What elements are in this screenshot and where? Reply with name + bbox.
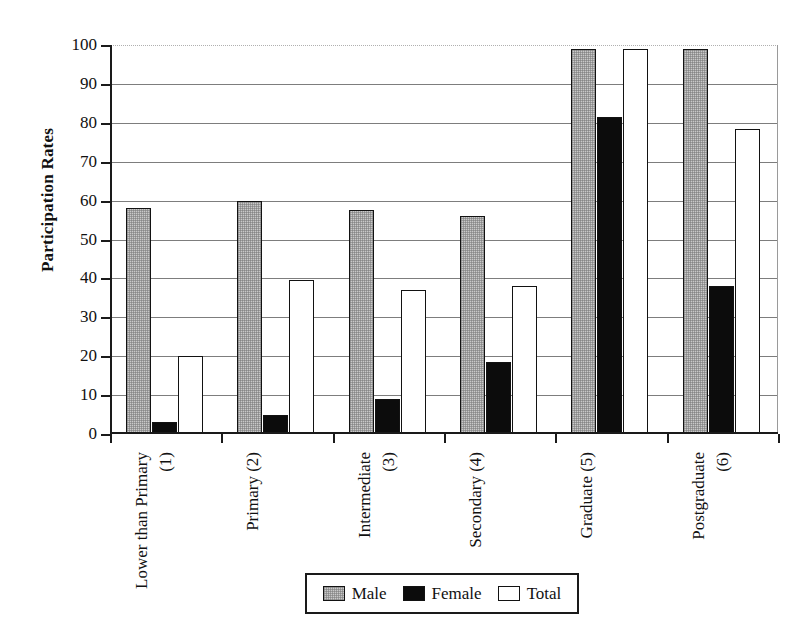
- y-axis-tick-label: 70: [53, 153, 97, 170]
- bar-total-3: [401, 290, 426, 434]
- y-axis-tick-mark: [101, 240, 110, 242]
- x-axis-tick-mark: [778, 434, 780, 443]
- y-axis-tick-label: 80: [53, 114, 97, 131]
- gridline: [110, 84, 778, 85]
- legend-item-total[interactable]: Total: [498, 585, 562, 602]
- participation-rates-bar-chart: Participation Rates 01020304050607080901…: [0, 0, 807, 643]
- legend-item-male[interactable]: Male: [323, 585, 387, 602]
- gridline: [110, 395, 778, 396]
- plot-area: [110, 45, 778, 434]
- y-axis-tick-mark: [101, 317, 110, 319]
- x-axis-tick-mark: [333, 434, 335, 443]
- bar-total-4: [512, 286, 537, 434]
- bar-male-5: [571, 49, 596, 434]
- y-axis-tick-label: 50: [53, 231, 97, 248]
- bar-female-6: [709, 286, 734, 434]
- bar-female-3: [375, 399, 400, 434]
- y-axis-tick-mark: [101, 201, 110, 203]
- y-axis-tick-label: 20: [53, 347, 97, 364]
- bar-female-5: [597, 117, 622, 434]
- y-axis-tick-mark: [101, 278, 110, 280]
- bar-male-1: [126, 208, 151, 434]
- gridline: [110, 278, 778, 279]
- gridline: [110, 162, 778, 163]
- x-axis-category-label: Postgraduate: [689, 452, 709, 642]
- gridline: [110, 201, 778, 202]
- plot-top-border: [110, 45, 778, 46]
- y-axis-tick-label: 60: [53, 192, 97, 209]
- bar-male-3: [349, 210, 374, 434]
- x-axis-category-label: Lower than Primary: [132, 452, 152, 642]
- y-axis-line: [110, 45, 112, 434]
- x-axis-tick-mark: [555, 434, 557, 443]
- y-axis-tick-label: 40: [53, 269, 97, 286]
- gridline: [110, 317, 778, 318]
- bar-female-4: [486, 362, 511, 434]
- bar-total-2: [289, 280, 314, 434]
- bar-male-2: [237, 201, 262, 434]
- y-axis-tick-mark: [101, 356, 110, 358]
- gridline: [110, 123, 778, 124]
- legend-label: Male: [352, 585, 387, 602]
- gridline: [110, 356, 778, 357]
- y-axis-tick-mark: [101, 395, 110, 397]
- y-axis-tick-label: 0: [53, 425, 97, 442]
- legend-label: Female: [432, 585, 482, 602]
- plot-right-border: [777, 45, 778, 434]
- y-axis-tick-mark: [101, 45, 110, 47]
- legend-swatch-total-icon: [498, 586, 520, 601]
- y-axis-tick-label: 90: [53, 75, 97, 92]
- bar-total-1: [178, 356, 203, 434]
- y-axis-tick-mark: [101, 84, 110, 86]
- y-axis-tick-mark: [101, 123, 110, 125]
- x-axis-category-label: (6): [713, 452, 733, 642]
- x-axis-tick-mark: [221, 434, 223, 443]
- legend-label: Total: [527, 585, 562, 602]
- x-axis-category-label: (1): [156, 452, 176, 642]
- y-axis-tick-mark: [101, 162, 110, 164]
- chart-legend: MaleFemaleTotal: [305, 573, 579, 614]
- x-axis-tick-mark: [667, 434, 669, 443]
- bar-male-4: [460, 216, 485, 434]
- bar-total-5: [623, 49, 648, 434]
- legend-swatch-female-icon: [403, 586, 425, 601]
- bar-male-6: [683, 49, 708, 434]
- y-axis-tick-label: 30: [53, 308, 97, 325]
- x-axis-tick-mark: [444, 434, 446, 443]
- x-axis-category-label: Primary (2): [243, 452, 263, 642]
- x-axis-tick-mark: [110, 434, 112, 443]
- legend-swatch-male-icon: [323, 586, 345, 601]
- y-axis-tick-label: 10: [53, 386, 97, 403]
- legend-item-female[interactable]: Female: [403, 585, 482, 602]
- bar-total-6: [735, 129, 760, 434]
- gridline: [110, 240, 778, 241]
- y-axis-tick-mark: [101, 434, 110, 436]
- y-axis-tick-label: 100: [53, 36, 97, 53]
- x-axis-category-label: Graduate (5): [577, 452, 597, 642]
